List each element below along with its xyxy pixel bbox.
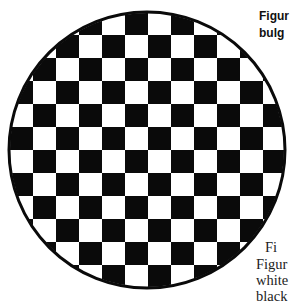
body-text-line-3: white <box>256 272 288 288</box>
body-text-line-4: black <box>256 288 287 303</box>
figure-caption: Figur bulg <box>259 8 289 42</box>
caption-line-1: Figur <box>259 8 289 25</box>
caption-line-2: bulg <box>259 25 289 42</box>
body-text-line-2: Figur <box>256 256 287 272</box>
body-text-line-1: Fi <box>265 239 277 255</box>
checkerboard-circle-figure <box>0 0 290 303</box>
